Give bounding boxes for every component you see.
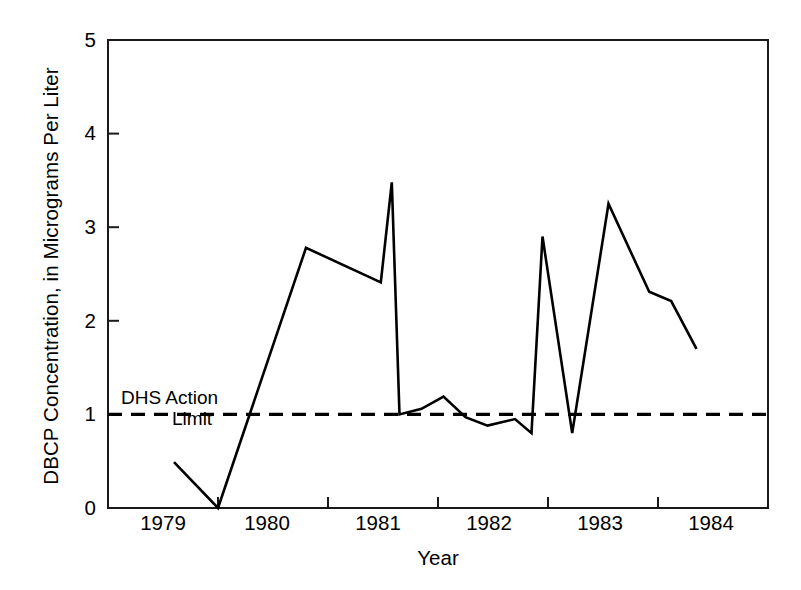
y-tick-label-4: 4 <box>56 123 96 144</box>
dhs-action-limit-line2: Limit <box>121 408 218 429</box>
x-tick-marks <box>218 497 658 508</box>
y-tick-label-1: 1 <box>56 404 96 425</box>
x-tick-label-1982: 1982 <box>444 513 534 534</box>
dhs-action-limit-annotation: DHS Action Limit <box>121 387 218 429</box>
plot-area <box>0 0 801 590</box>
dhs-action-limit-line1: DHS Action <box>121 387 218 408</box>
x-tick-label-1979: 1979 <box>118 513 208 534</box>
data-series-line <box>174 182 697 508</box>
plot-frame <box>108 40 768 508</box>
y-axis-title: DBCP Concentration, in Micrograms Per Li… <box>39 36 63 516</box>
x-axis-title: Year <box>108 546 768 570</box>
x-tick-label-1980: 1980 <box>222 513 312 534</box>
chart-figure: DBCP Concentration, in Micrograms Per Li… <box>0 0 801 590</box>
y-tick-label-5: 5 <box>56 30 96 51</box>
x-tick-label-1981: 1981 <box>333 513 423 534</box>
y-tick-label-3: 3 <box>56 217 96 238</box>
y-tick-marks <box>108 134 119 415</box>
y-tick-label-2: 2 <box>56 311 96 332</box>
y-tick-label-0: 0 <box>56 498 96 519</box>
x-tick-label-1984: 1984 <box>666 513 756 534</box>
x-tick-label-1983: 1983 <box>555 513 645 534</box>
